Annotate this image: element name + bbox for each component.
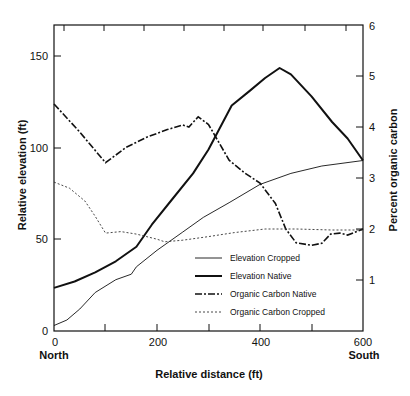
y-right-tick-1: 1 [369, 274, 375, 286]
y-right-tick-3: 3 [369, 172, 375, 184]
plot-frame [54, 25, 363, 331]
x-end-label-north: North [39, 349, 69, 361]
y-left-tick-0: 0 [42, 325, 48, 337]
x-end-label-south: South [348, 349, 379, 361]
series-elevation-native [54, 68, 363, 288]
y-left-tick-50: 50 [36, 233, 48, 245]
series-elevation-cropped [54, 161, 363, 326]
y-left-axis-title: Relative elevation (ft) [16, 119, 28, 230]
legend: Elevation Cropped Elevation Native Organ… [195, 253, 325, 317]
top-axis-ticks [64, 25, 346, 31]
x-tick-600: 600 [354, 336, 372, 348]
y-right-tick-4: 4 [369, 121, 375, 133]
x-tick-200: 200 [149, 336, 167, 348]
y-left-tick-150: 150 [30, 50, 48, 62]
series-organic-carbon-cropped [54, 182, 363, 242]
legend-label-organic-carbon-native: Organic Carbon Native [230, 289, 317, 299]
y-right-tick-6: 6 [369, 20, 375, 32]
y-right-tick-2: 2 [369, 223, 375, 235]
y-right-tick-5: 5 [369, 70, 375, 82]
x-tick-400: 400 [252, 336, 270, 348]
y-left-axis-ticks [54, 56, 61, 239]
legend-label-elevation-cropped: Elevation Cropped [230, 253, 300, 263]
y-right-axis-ticks [356, 76, 363, 280]
x-axis-title: Relative distance (ft) [155, 368, 263, 380]
legend-label-organic-carbon-cropped: Organic Carbon Cropped [230, 307, 325, 317]
x-axis-ticks [105, 324, 312, 331]
chart: 0 50 100 150 1 2 3 4 5 6 0 200 400 600 N… [0, 0, 410, 396]
y-left-tick-100: 100 [30, 142, 48, 154]
x-tick-0: 0 [52, 336, 58, 348]
legend-label-elevation-native: Elevation Native [230, 271, 292, 281]
y-right-axis-title: Percent organic carbon [387, 108, 399, 231]
